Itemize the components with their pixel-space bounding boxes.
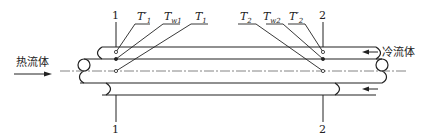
outer-pipe-right-break-top (376, 47, 381, 59)
point-T2 (321, 69, 324, 72)
point-T1-prime (114, 50, 117, 53)
leader-Tw1 (116, 24, 180, 59)
outer-pipe-left-break-bottom (106, 83, 111, 95)
leader-T2-prime (288, 24, 323, 52)
point-Tw2 (321, 57, 324, 60)
point-T1 (114, 69, 117, 72)
hot-fluid-arrow-icon (14, 72, 52, 77)
cold-fluid-label: 冷流体 (382, 45, 415, 59)
label-T2-prime: T′2 (289, 10, 304, 25)
cold-fluid-outflow-arrow-icon (362, 87, 378, 92)
label-T2: T2 (240, 10, 252, 25)
section-2-top-label: 2 (319, 9, 326, 22)
inner-pipe-right-break-lower2 (376, 71, 387, 83)
label-Tw1: Tw1 (164, 10, 182, 25)
hot-fluid-label: 热流体 (16, 55, 49, 69)
cold-fluid-arrow-icon (362, 50, 378, 55)
section-1-top-label: 1 (112, 9, 119, 22)
section-2-bottom-label: 2 (319, 123, 326, 136)
outer-pipe-right-break-bottom (335, 83, 340, 95)
point-Tw1 (114, 57, 117, 60)
leader-Tw2 (266, 24, 323, 59)
inner-pipe-left-break-lower (80, 71, 85, 83)
outer-pipe-left-break-top (98, 47, 103, 59)
point-T2-prime (321, 50, 324, 53)
label-T1: T1 (195, 10, 207, 25)
section-1-bottom-label: 1 (112, 123, 119, 136)
inner-pipe-left-end (78, 59, 90, 71)
inner-pipe-right-end (376, 59, 388, 71)
label-Tw2: Tw2 (263, 10, 281, 25)
label-T1-prime: T′1 (137, 10, 151, 25)
heat-exchanger-diagram: 1 1 2 2 T′1 Tw1 T1 T2 Tw2 T′2 热流体 冷流体 (0, 0, 422, 139)
